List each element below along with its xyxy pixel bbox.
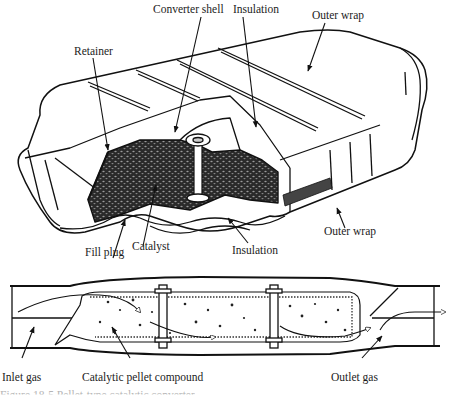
figure-caption-cropped: Figure 18-5 Pellet-type catalytic conver… bbox=[0, 389, 195, 395]
label-outlet-gas: Outlet gas bbox=[331, 371, 378, 383]
label-catalytic-pellet-compound: Catalytic pellet compound bbox=[82, 371, 203, 383]
diagram-figure: Converter shell Insulation Outer wrap Re… bbox=[0, 0, 453, 395]
label-outer-wrap-bottom: Outer wrap bbox=[324, 225, 376, 237]
top-cutaway-view bbox=[18, 30, 427, 233]
converter-illustration bbox=[0, 0, 453, 395]
label-inlet-gas: Inlet gas bbox=[2, 371, 41, 383]
leader-lines-top bbox=[93, 17, 345, 258]
cross-section-view bbox=[10, 277, 445, 355]
label-insulation-top: Insulation bbox=[233, 3, 279, 15]
label-insulation-bottom: Insulation bbox=[232, 244, 278, 256]
label-converter-shell: Converter shell bbox=[153, 3, 224, 15]
label-fill-plug: Fill plug bbox=[85, 246, 124, 258]
label-outer-wrap-top: Outer wrap bbox=[312, 9, 364, 21]
label-catalyst: Catalyst bbox=[132, 240, 170, 252]
label-retainer: Retainer bbox=[74, 45, 113, 57]
